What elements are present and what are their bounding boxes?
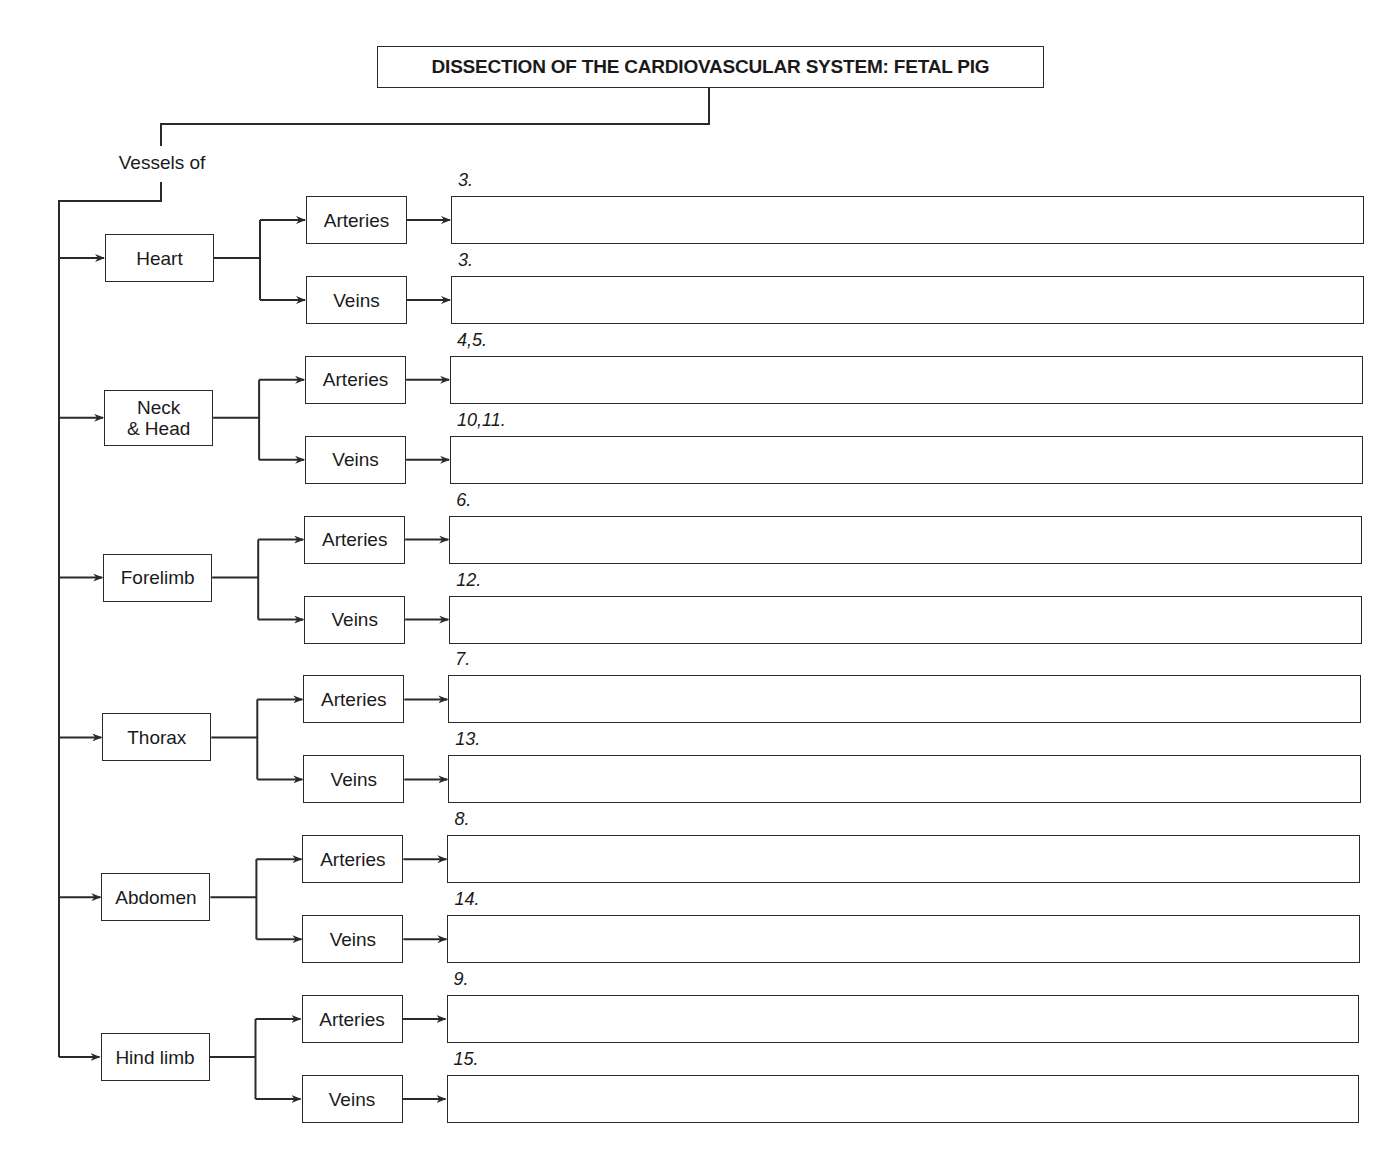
arteries-answer-field[interactable] — [450, 356, 1363, 404]
veins-question-number: 13. — [455, 729, 480, 750]
veins-answer-field[interactable] — [451, 276, 1364, 324]
veins-answer-field[interactable] — [449, 596, 1362, 644]
arteries-box: Arteries — [303, 675, 404, 723]
veins-question-number: 3. — [458, 250, 473, 271]
arteries-answer-field[interactable] — [447, 995, 1359, 1043]
veins-question-number: 14. — [454, 889, 479, 910]
region-box: Forelimb — [103, 554, 212, 602]
veins-box: Veins — [304, 596, 405, 644]
arteries-question-number: 7. — [455, 649, 470, 670]
veins-answer-field[interactable] — [447, 1075, 1359, 1123]
arteries-answer-field[interactable] — [451, 196, 1364, 244]
veins-answer-field[interactable] — [447, 915, 1359, 963]
veins-box: Veins — [302, 915, 403, 963]
arteries-question-number: 6. — [456, 490, 471, 511]
veins-box: Veins — [305, 436, 406, 484]
arteries-answer-field[interactable] — [449, 516, 1362, 564]
veins-box: Veins — [303, 755, 404, 803]
region-box: Neck & Head — [104, 390, 213, 446]
region-box: Hind limb — [101, 1033, 210, 1081]
arteries-answer-field[interactable] — [447, 835, 1359, 883]
region-box: Heart — [105, 234, 214, 282]
veins-question-number: 12. — [456, 570, 481, 591]
arteries-box: Arteries — [306, 196, 407, 244]
veins-answer-field[interactable] — [450, 436, 1363, 484]
veins-question-number: 15. — [454, 1049, 479, 1070]
region-box: Abdomen — [101, 873, 210, 921]
arteries-question-number: 8. — [454, 809, 469, 830]
veins-box: Veins — [302, 1075, 403, 1123]
veins-answer-field[interactable] — [448, 755, 1360, 803]
veins-box: Veins — [306, 276, 407, 324]
arteries-box: Arteries — [302, 995, 403, 1043]
arteries-question-number: 4,5. — [457, 330, 487, 351]
region-box: Thorax — [102, 713, 211, 761]
arteries-box: Arteries — [302, 835, 403, 883]
arteries-answer-field[interactable] — [448, 675, 1360, 723]
arteries-box: Arteries — [305, 356, 406, 404]
arteries-question-number: 9. — [454, 969, 469, 990]
arteries-question-number: 3. — [458, 170, 473, 191]
veins-question-number: 10,11. — [457, 410, 506, 431]
arteries-box: Arteries — [304, 516, 405, 564]
